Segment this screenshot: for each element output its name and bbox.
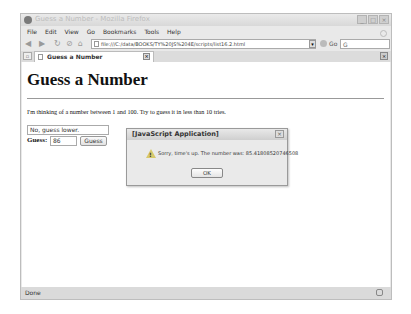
close-tab-button[interactable]: × (143, 53, 150, 60)
reload-button[interactable]: ↻ (54, 39, 61, 49)
tab-bar: ▫ Guess a Number × × (21, 51, 391, 62)
page-icon (94, 41, 99, 47)
menu-tools[interactable]: Tools (144, 28, 159, 35)
message-field[interactable]: No, guess lower. (27, 125, 109, 135)
intro-text: I'm thinking of a number between 1 and 1… (27, 108, 226, 115)
throbber-icon (380, 30, 387, 37)
dialog-message: Sorry, time's up. The number was: 85.418… (158, 150, 298, 156)
title-bar: Guess a Number - Mozilla Firefox _ □ × (21, 14, 391, 26)
forward-button[interactable]: ▶ (39, 39, 45, 49)
guess-label: Guess: (27, 136, 47, 144)
window-title: Guess a Number - Mozilla Firefox (35, 15, 150, 23)
go-icon[interactable] (320, 40, 327, 47)
menu-bar: File Edit View Go Bookmarks Tools Help (21, 26, 391, 37)
page-icon (38, 54, 43, 60)
tab-guess-a-number[interactable]: Guess a Number × (34, 51, 154, 62)
search-box[interactable]: G (340, 39, 390, 49)
minimize-button[interactable]: _ (357, 15, 367, 24)
firefox-logo-icon (24, 16, 32, 24)
status-text: Done (25, 289, 41, 296)
tab-label: Guess a Number (47, 53, 103, 60)
window-controls: _ □ × (357, 15, 389, 24)
back-button[interactable]: ◀ (25, 39, 31, 49)
menu-go[interactable]: Go (87, 28, 95, 35)
warning-mark: ! (149, 151, 152, 158)
google-search-icon: G (343, 41, 348, 48)
dialog-title: [JavaScript Application] (127, 129, 287, 140)
security-icon (376, 289, 383, 296)
home-button[interactable]: ⌂ (78, 39, 83, 49)
dialog-close-button[interactable]: × (275, 130, 284, 138)
status-bar: Done (21, 287, 391, 299)
menu-file[interactable]: File (27, 28, 37, 35)
javascript-alert-dialog: [JavaScript Application] × ! Sorry, time… (126, 128, 288, 186)
navigation-toolbar: ◀ ▶ ↻ ⊘ ⌂ file:///C:/data/BOOKS/TY%20JS%… (21, 37, 391, 51)
url-dropdown-button[interactable]: ▾ (309, 40, 316, 48)
close-window-button[interactable]: × (379, 15, 389, 24)
maximize-button[interactable]: □ (368, 15, 378, 24)
tab-list-button[interactable]: ▫ (23, 52, 32, 60)
ok-button[interactable]: OK (191, 168, 223, 178)
page-heading: Guess a Number (27, 70, 148, 90)
menu-help[interactable]: Help (167, 28, 181, 35)
stop-button[interactable]: ⊘ (66, 39, 73, 49)
url-bar[interactable]: file:///C:/data/BOOKS/TY%20JS%204E/scrip… (91, 39, 316, 49)
divider (27, 98, 384, 99)
guess-input[interactable]: 86 (50, 136, 77, 146)
go-button[interactable]: Go (329, 40, 337, 47)
guess-button[interactable]: Guess (80, 136, 107, 146)
menu-edit[interactable]: Edit (45, 28, 57, 35)
menu-bookmarks[interactable]: Bookmarks (103, 28, 137, 35)
close-all-tabs-button[interactable]: × (380, 52, 388, 60)
url-text: file:///C:/data/BOOKS/TY%20JS%204E/scrip… (101, 41, 245, 47)
menu-view[interactable]: View (65, 28, 79, 35)
